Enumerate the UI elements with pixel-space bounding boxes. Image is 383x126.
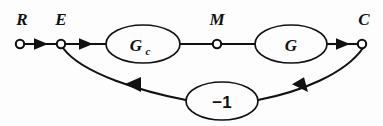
signal-label-e: E (54, 10, 66, 29)
block-gain-label: −1 (212, 93, 231, 112)
block-diagram-canvas: G c G −1 R E M C (0, 0, 383, 126)
arrowhead-r-to-e-icon (34, 38, 48, 50)
node-m[interactable] (213, 40, 221, 48)
signal-label-r: R (15, 10, 27, 29)
block-gc-subscript: c (146, 45, 151, 57)
edge-gain-to-e (63, 48, 186, 100)
signal-label-c: C (358, 10, 370, 29)
node-e[interactable] (57, 40, 65, 48)
edge-c-to-gain (258, 48, 363, 100)
block-diagram-svg: G c G −1 R E M C (0, 0, 383, 126)
node-c[interactable] (358, 40, 366, 48)
block-g-label: G (285, 36, 298, 55)
arrowhead-e-to-gc-icon (79, 38, 93, 50)
arrowhead-gain-to-e-icon (125, 77, 141, 92)
block-gc[interactable] (106, 25, 180, 63)
signal-labels-group: R E M C (15, 10, 370, 29)
block-gc-label: G (130, 36, 143, 55)
node-r[interactable] (16, 40, 24, 48)
arrowhead-g-to-c-icon (336, 38, 350, 50)
signal-label-m: M (208, 10, 225, 29)
